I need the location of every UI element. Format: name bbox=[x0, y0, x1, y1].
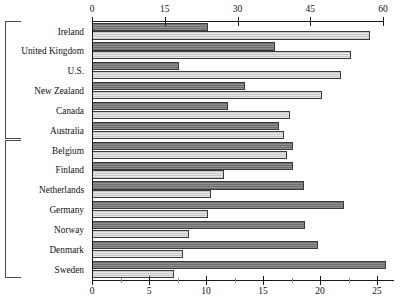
top-axis-tick bbox=[310, 17, 311, 26]
bar-series-2-netherlands bbox=[92, 190, 211, 198]
bar-series-1-u-s- bbox=[92, 62, 179, 70]
bottom-axis-tick-label: 20 bbox=[305, 286, 335, 297]
category-label: Canada bbox=[56, 106, 84, 116]
bottom-axis-minor-tick bbox=[349, 278, 350, 283]
bar-series-1-sweden bbox=[92, 261, 386, 269]
category-label: Australia bbox=[50, 126, 84, 136]
bottom-axis-minor-tick bbox=[292, 278, 293, 283]
category-label: New Zealand bbox=[34, 86, 84, 96]
top-axis-tick bbox=[238, 17, 239, 26]
bar-series-2-u-s- bbox=[92, 71, 341, 79]
bar-series-2-germany bbox=[92, 210, 208, 218]
bar-series-2-united-kingdom bbox=[92, 51, 351, 59]
bar-series-2-denmark bbox=[92, 250, 183, 258]
top-axis-tick-label: 30 bbox=[223, 4, 253, 15]
bar-series-1-united-kingdom bbox=[92, 42, 275, 50]
bottom-axis-tick-label: 10 bbox=[191, 286, 221, 297]
bottom-axis-tick bbox=[263, 276, 264, 285]
bar-series-2-ireland bbox=[92, 31, 370, 39]
category-label: Germany bbox=[49, 205, 84, 215]
category-label: Netherlands bbox=[39, 185, 84, 195]
top-axis-tick-label: 60 bbox=[368, 4, 398, 15]
y-axis-spine bbox=[92, 22, 93, 280]
bar-series-2-finland bbox=[92, 170, 224, 178]
bar-series-1-denmark bbox=[92, 241, 318, 249]
bar-series-1-finland bbox=[92, 162, 293, 170]
group-bracket bbox=[5, 140, 21, 278]
bar-series-2-norway bbox=[92, 230, 189, 238]
bar-series-2-sweden bbox=[92, 270, 174, 278]
bar-series-1-norway bbox=[92, 221, 305, 229]
group-bracket bbox=[5, 21, 21, 139]
category-label: Belgium bbox=[52, 146, 84, 156]
bottom-axis-tick bbox=[206, 276, 207, 285]
bar-series-2-new-zealand bbox=[92, 91, 322, 99]
bottom-axis-tick-label: 0 bbox=[77, 286, 107, 297]
bar-series-1-ireland bbox=[92, 23, 208, 31]
bottom-axis-tick-label: 5 bbox=[134, 286, 164, 297]
bar-series-2-belgium bbox=[92, 151, 287, 159]
top-axis-tick-label: 15 bbox=[150, 4, 180, 15]
top-axis-tick bbox=[165, 17, 166, 26]
category-label: Finland bbox=[56, 165, 84, 175]
bar-series-1-germany bbox=[92, 201, 344, 209]
bar-series-2-canada bbox=[92, 111, 290, 119]
bar-series-1-netherlands bbox=[92, 181, 304, 189]
bottom-axis-minor-tick bbox=[121, 278, 122, 283]
bottom-axis-tick bbox=[377, 276, 378, 285]
bar-series-1-new-zealand bbox=[92, 82, 245, 90]
bar-series-1-belgium bbox=[92, 142, 293, 150]
bottom-axis-tick bbox=[149, 276, 150, 285]
bar-series-1-australia bbox=[92, 122, 279, 130]
bottom-axis-tick-label: 15 bbox=[248, 286, 278, 297]
category-label: Sweden bbox=[55, 265, 84, 275]
top-axis-tick bbox=[383, 17, 384, 26]
bottom-axis-minor-tick bbox=[235, 278, 236, 283]
top-axis-tick-label: 0 bbox=[77, 4, 107, 15]
bottom-axis-tick bbox=[320, 276, 321, 285]
bottom-axis-tick-label: 25 bbox=[362, 286, 392, 297]
bottom-axis-minor-tick bbox=[178, 278, 179, 283]
category-label: Norway bbox=[54, 225, 84, 235]
category-label: Denmark bbox=[49, 245, 84, 255]
bar-series-2-australia bbox=[92, 131, 284, 139]
category-label: United Kingdom bbox=[21, 46, 84, 56]
top-axis-tick-label: 45 bbox=[295, 4, 325, 15]
category-label: Ireland bbox=[58, 27, 84, 37]
bar-series-1-canada bbox=[92, 102, 228, 110]
category-label: U.S. bbox=[67, 66, 84, 76]
